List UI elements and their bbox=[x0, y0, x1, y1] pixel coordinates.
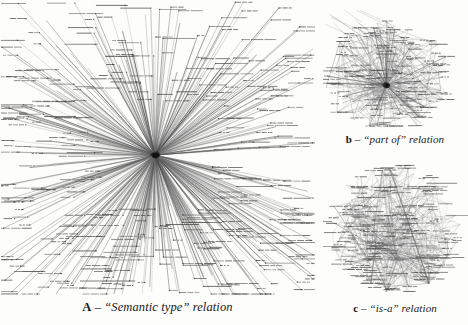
caption-a-dash: – bbox=[92, 300, 105, 314]
graph-svg-a bbox=[0, 0, 315, 296]
caption-c-dash: – bbox=[358, 302, 369, 314]
graph-panel-part-of bbox=[322, 2, 468, 130]
graph-canvas-a bbox=[0, 0, 315, 296]
caption-panel-b: b – “part of” relation bbox=[322, 133, 468, 145]
graph-canvas-b bbox=[322, 2, 468, 130]
figure-container: A – “Semantic type” relation b – “part o… bbox=[0, 0, 468, 325]
graph-svg-c bbox=[322, 160, 468, 298]
caption-b-text: “part of” relation bbox=[363, 133, 444, 145]
caption-a-text: “Semantic type” relation bbox=[104, 300, 232, 314]
caption-b-dash: – bbox=[352, 133, 363, 145]
caption-c-text: “is-a” relation bbox=[369, 302, 436, 314]
graph-panel-is-a bbox=[322, 160, 468, 298]
graph-svg-b bbox=[322, 2, 468, 130]
caption-panel-a: A – “Semantic type” relation bbox=[0, 300, 315, 315]
graph-canvas-c bbox=[322, 160, 468, 298]
caption-panel-c: c – “is-a” relation bbox=[322, 302, 468, 314]
graph-panel-semantic-type bbox=[0, 0, 315, 296]
caption-a-letter: A bbox=[82, 300, 91, 314]
